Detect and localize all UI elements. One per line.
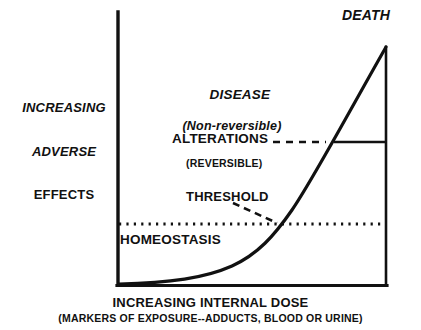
x-axis-title: INCREASING INTERNAL DOSE (0, 296, 421, 311)
disease-label-text: DISEASE (210, 87, 271, 102)
zone-label-homeostasis: HOMEOSTASIS (120, 232, 221, 247)
zone-label-death: DEATH (342, 8, 390, 24)
zone-label-threshold: THRESHOLD (186, 190, 269, 205)
dose-response-figure: INCREASING ADVERSE EFFECTS DISEASE (Non-… (0, 0, 421, 330)
y-axis-title-line2: ADVERSE (14, 145, 114, 160)
zone-label-alterations: ALTERATIONS (172, 131, 268, 146)
y-axis-title-line1: INCREASING (14, 101, 114, 116)
zone-label-reversible: (REVERSIBLE) (186, 158, 263, 170)
zone-label-disease: DISEASE (Non-reversible) (152, 72, 312, 164)
y-axis-title: INCREASING ADVERSE EFFECTS (14, 72, 114, 232)
y-axis-title-line3: EFFECTS (14, 188, 114, 203)
x-axis-subtitle: (MARKERS OF EXPOSURE--ADDUCTS, BLOOD OR … (0, 313, 421, 325)
threshold-leader-line (233, 203, 277, 223)
